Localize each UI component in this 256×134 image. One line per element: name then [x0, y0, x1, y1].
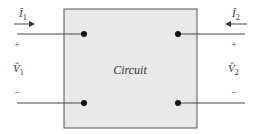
circuit-label: Circuit	[113, 63, 147, 77]
port1-bottom-node	[81, 100, 87, 106]
port1-plus-sign: +	[14, 39, 20, 50]
port1-current-label: Î1	[18, 7, 27, 22]
port2-top-node	[175, 31, 181, 37]
port2-current-label: Î2	[231, 7, 240, 22]
port2-bottom-node	[175, 100, 181, 106]
port1-top-node	[81, 31, 87, 37]
port1-voltage-label: V̂1	[13, 62, 24, 77]
port1-minus-sign: −	[14, 87, 20, 98]
port2-voltage-label: V̂2	[228, 62, 239, 77]
two-port-circuit-diagram: Circuit Î1 Î2 + V̂1 − + V̂2 −	[0, 0, 256, 134]
port2-minus-sign: −	[231, 87, 237, 98]
port2-plus-sign: +	[231, 39, 237, 50]
